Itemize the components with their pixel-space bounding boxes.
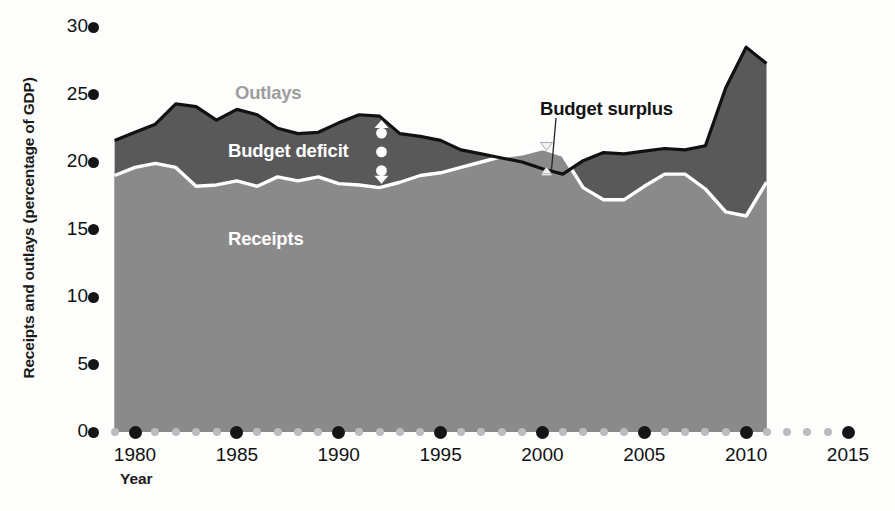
x-tick-label: 2010 — [711, 444, 781, 466]
x-tick-major — [434, 426, 447, 439]
y-tick-dot — [88, 292, 99, 303]
y-tick-dot — [88, 157, 99, 168]
y-tick-label: 15 — [48, 218, 88, 240]
x-axis-title: Year — [120, 470, 152, 488]
area-receipts — [115, 149, 767, 433]
y-tick-label: 0 — [48, 420, 88, 442]
y-tick-dot — [88, 22, 99, 33]
y-tick-label: 20 — [48, 150, 88, 172]
y-tick-dot — [88, 427, 99, 438]
x-tick-minor — [661, 428, 669, 436]
x-tick-minor — [396, 428, 404, 436]
x-tick-minor — [457, 428, 465, 436]
label-budget-deficit: Budget deficit — [228, 140, 349, 162]
x-tick-label: 1985 — [202, 444, 272, 466]
x-tick-major — [230, 426, 243, 439]
x-tick-minor — [763, 428, 771, 436]
x-tick-minor — [559, 428, 567, 436]
y-tick-label: 30 — [48, 15, 88, 37]
x-tick-minor — [620, 428, 628, 436]
y-tick-label: 10 — [48, 285, 88, 307]
chart-canvas: Receipts and outlays (percentage of GDP)… — [0, 0, 895, 511]
x-tick-major — [332, 426, 345, 439]
y-tick-label: 5 — [48, 353, 88, 375]
x-tick-major — [740, 426, 753, 439]
x-tick-minor — [274, 428, 282, 436]
x-tick-label: 1980 — [100, 444, 170, 466]
x-tick-label: 1990 — [304, 444, 374, 466]
x-tick-minor — [600, 428, 608, 436]
y-tick-label: 25 — [48, 83, 88, 105]
x-tick-major — [842, 426, 855, 439]
x-tick-minor — [681, 428, 689, 436]
x-tick-label: 1995 — [406, 444, 476, 466]
x-tick-minor — [172, 428, 180, 436]
x-tick-label: 2000 — [507, 444, 577, 466]
x-tick-label: 2005 — [609, 444, 679, 466]
label-outlays: Outlays — [235, 82, 301, 104]
x-tick-minor — [783, 428, 791, 436]
x-tick-minor — [376, 428, 384, 436]
x-tick-minor — [498, 428, 506, 436]
x-tick-minor — [722, 428, 730, 436]
x-tick-major — [129, 426, 142, 439]
x-tick-major — [536, 426, 549, 439]
x-tick-minor — [294, 428, 302, 436]
y-tick-dot — [88, 224, 99, 235]
x-tick-major — [638, 426, 651, 439]
label-budget-surplus: Budget surplus — [540, 98, 673, 120]
label-receipts: Receipts — [228, 228, 304, 250]
x-tick-minor — [824, 428, 832, 436]
x-tick-label: 2015 — [813, 444, 883, 466]
x-tick-minor — [213, 428, 221, 436]
x-tick-minor — [111, 428, 119, 436]
y-tick-dot — [88, 89, 99, 100]
y-tick-dot — [88, 359, 99, 370]
